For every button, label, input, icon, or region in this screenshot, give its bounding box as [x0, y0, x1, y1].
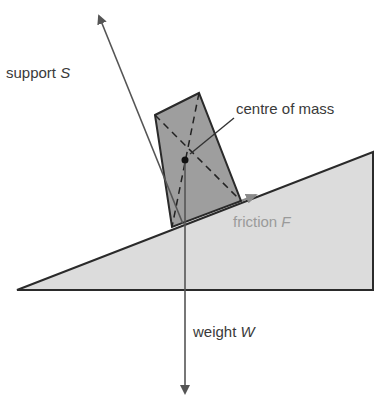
weight-label: weight W — [193, 323, 255, 340]
force-diagram — [0, 0, 382, 408]
support-symbol: S — [60, 64, 70, 81]
friction-label: friction F — [233, 213, 291, 230]
support-label: support S — [6, 64, 70, 81]
centre-of-mass-label-text: centre of mass — [236, 100, 334, 117]
weight-symbol: W — [241, 323, 255, 340]
block — [155, 93, 241, 227]
friction-symbol: F — [281, 213, 290, 230]
centre-of-mass-dot — [182, 157, 189, 164]
support-label-text: support — [6, 64, 56, 81]
centre-of-mass-label: centre of mass — [236, 100, 334, 117]
weight-label-text: weight — [193, 323, 236, 340]
friction-label-text: friction — [233, 213, 277, 230]
